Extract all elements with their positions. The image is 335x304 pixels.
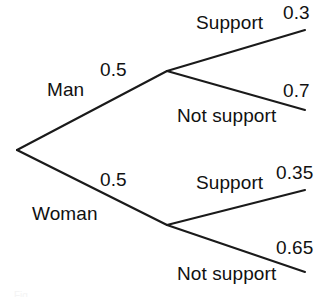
branch-line-root-to-man [17, 71, 167, 150]
probability-label-man-support: 0.3 [283, 3, 310, 23]
probability-label-woman: 0.5 [100, 170, 127, 190]
outcome-label-man-support: Support [196, 13, 263, 33]
probability-label-man: 0.5 [100, 60, 127, 80]
outcome-label-woman-not-support: Not support [177, 264, 276, 284]
branch-label-man: Man [47, 80, 84, 100]
probability-label-man-not-support: 0.7 [283, 81, 310, 101]
branch-line-man-to-support [167, 30, 305, 71]
probability-label-woman-not-support: 0.65 [276, 238, 313, 258]
branch-line-woman-to-support [167, 190, 305, 225]
probability-label-woman-support: 0.35 [276, 163, 313, 183]
branch-label-woman: Woman [32, 204, 98, 224]
figure-caption-stub: Fig. [14, 290, 76, 297]
outcome-label-man-not-support: Not support [177, 106, 276, 126]
outcome-label-woman-support: Support [196, 173, 263, 193]
probability-tree-figure: 0.5 Man 0.5 Woman Support 0.3 Not suppor… [0, 0, 335, 304]
tree-branches-svg [0, 0, 335, 304]
